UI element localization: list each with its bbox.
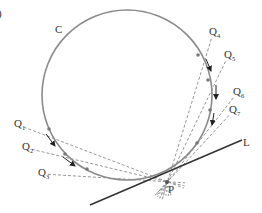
panel-label: ): [0, 7, 2, 20]
secant-line-q2: [32, 149, 185, 186]
approach-arrows: [46, 59, 216, 166]
point-p-label: P: [168, 183, 174, 195]
secant-lines: [24, 39, 234, 200]
label-q2: Q2: [22, 140, 33, 154]
point-q7-on-circle: [195, 141, 199, 145]
label-q3: Q3: [38, 166, 49, 180]
label-q7: Q7: [229, 103, 241, 117]
secant-line-q5: [159, 61, 225, 198]
point-q3-on-circle: [85, 167, 89, 171]
secant-line-q4: [162, 39, 211, 200]
point-q1-on-circle: [47, 127, 51, 131]
label-q1: Q1: [14, 117, 25, 131]
arrow-icon: [46, 134, 55, 146]
tangent-diagram: ) C L P Q1Q2Q3Q4Q5Q6Q7: [0, 0, 262, 213]
tangent-label: L: [243, 136, 250, 148]
point-q6-on-circle: [208, 108, 212, 112]
hatch-line: [157, 182, 167, 197]
circle-points: [47, 53, 212, 184]
circle-label: C: [55, 23, 62, 35]
point-q2-on-circle: [63, 152, 67, 156]
label-q6: Q6: [233, 85, 245, 99]
point-q4-on-circle: [196, 53, 200, 57]
label-q4: Q4: [209, 25, 221, 39]
circle-c: [42, 10, 212, 180]
label-q5: Q5: [224, 48, 235, 62]
point-q5-on-circle: [206, 78, 210, 82]
